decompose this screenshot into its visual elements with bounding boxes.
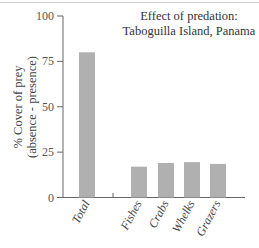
x-tick-label-crabs: Crabs [146, 198, 172, 231]
bar-crabs [158, 163, 174, 197]
bar-fishes [131, 167, 147, 198]
bars [79, 52, 226, 197]
bar-chart: Effect of predation: Taboguilla Island, … [0, 0, 259, 248]
x-tick-label-total: Total [69, 197, 93, 226]
y-tick-label: 75 [42, 54, 54, 68]
y-ticks: 0255075100 [36, 9, 63, 205]
y-tick-label: 0 [48, 191, 54, 205]
y-axis-title: % Cover of prey [11, 65, 25, 149]
y-tick-label: 100 [36, 9, 54, 23]
x-tick-label-fishes: Fishes [117, 198, 145, 233]
y-tick-label: 50 [42, 100, 54, 114]
x-tick-label-grazers: Grazers [193, 198, 224, 239]
bar-whelks [184, 162, 200, 197]
bar-grazers [210, 164, 226, 198]
x-tick-labels: TotalFishesCrabsWhelksGrazers [69, 197, 224, 238]
chart-title: Effect of predation: [140, 9, 238, 23]
y-axis-title-line2: (absence - presence) [25, 56, 39, 158]
chart-subtitle: Taboguilla Island, Panama [123, 24, 256, 38]
y-tick-label: 25 [42, 145, 54, 159]
bar-total [79, 52, 95, 197]
